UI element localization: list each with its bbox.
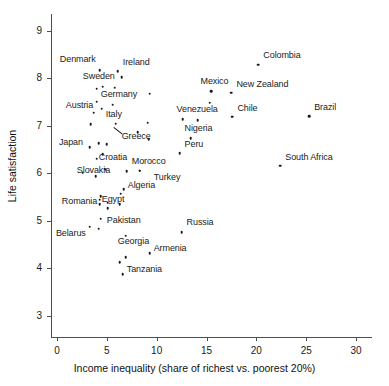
data-point-venezuela[interactable] — [181, 118, 184, 121]
data-point[interactable] — [105, 169, 108, 172]
y-tick-label: 6 — [36, 166, 42, 179]
y-tick-label: 8 — [36, 71, 42, 84]
data-point[interactable] — [98, 227, 101, 230]
data-point[interactable] — [82, 171, 85, 174]
y-tick-label: 9 — [36, 24, 42, 37]
data-point[interactable] — [96, 158, 99, 161]
data-point-morocco[interactable] — [125, 170, 128, 173]
point-label-ireland: Ireland — [123, 57, 150, 67]
x-tick-mark — [306, 337, 307, 341]
data-point[interactable] — [93, 112, 96, 115]
point-label-armenia: Armenia — [154, 243, 187, 253]
y-tick-mark — [47, 173, 51, 174]
y-tick-mark — [47, 268, 51, 269]
point-label-sweden: Sweden — [83, 71, 115, 81]
data-point[interactable] — [120, 76, 123, 79]
data-point-germany[interactable] — [112, 103, 115, 106]
point-label-russia: Russia — [187, 217, 214, 227]
y-tick-mark — [47, 126, 51, 127]
y-tick-label: 4 — [36, 261, 42, 274]
data-point[interactable] — [196, 119, 199, 122]
point-label-south-africa: South Africa — [285, 152, 332, 162]
point-label-algeria: Algeria — [128, 180, 155, 190]
data-point-pakistan[interactable] — [100, 217, 103, 220]
point-label-new-zealand: New Zealand — [236, 79, 288, 89]
x-tick-label: 30 — [350, 344, 361, 357]
data-point-algeria[interactable] — [122, 188, 125, 191]
point-label-nigeria: Nigeria — [185, 123, 213, 133]
point-label-croatia: Croatia — [99, 152, 127, 162]
point-label-colombia: Colombia — [263, 50, 300, 60]
point-label-denmark: Denmark — [60, 54, 96, 64]
y-tick-mark — [47, 78, 51, 79]
data-point-ireland[interactable] — [116, 70, 119, 73]
x-tick-label: 0 — [54, 344, 60, 357]
x-tick-mark — [207, 337, 208, 341]
data-point[interactable] — [146, 121, 149, 124]
point-label-georgia: Georgia — [118, 236, 149, 246]
data-point[interactable] — [147, 138, 150, 141]
data-point-tanzania[interactable] — [121, 273, 124, 276]
x-tick-mark — [157, 337, 158, 341]
data-point-mexico[interactable] — [210, 90, 213, 93]
data-point-turkey[interactable] — [138, 169, 141, 172]
x-tick-label: 5 — [104, 344, 110, 357]
x-tick-mark — [57, 337, 58, 341]
scatter-chart: 3456789 051015202530 Life satisfaction I… — [0, 0, 389, 386]
data-point-south-africa[interactable] — [279, 164, 282, 167]
point-label-austria: Austria — [66, 100, 93, 110]
data-point-chile[interactable] — [231, 115, 234, 118]
data-point-brazil[interactable] — [308, 115, 311, 118]
data-point[interactable] — [107, 207, 110, 210]
point-label-venezuela: Venezuela — [177, 104, 218, 114]
data-point[interactable] — [118, 261, 121, 264]
data-point[interactable] — [95, 175, 98, 178]
point-label-turkey: Turkey — [154, 172, 181, 182]
data-point[interactable] — [96, 87, 99, 90]
x-tick-mark — [256, 337, 257, 341]
y-tick-mark — [47, 316, 51, 317]
data-point-romania[interactable] — [99, 198, 102, 201]
plot-area — [51, 14, 371, 337]
point-label-peru: Peru — [185, 139, 204, 149]
data-point-japan[interactable] — [89, 146, 92, 149]
x-tick-label: 10 — [151, 344, 162, 357]
data-point-armenia[interactable] — [148, 252, 151, 255]
data-point-peru[interactable] — [178, 152, 181, 155]
data-point-new-zealand[interactable] — [230, 92, 233, 95]
data-point[interactable] — [96, 101, 99, 104]
data-point[interactable] — [98, 142, 101, 145]
data-point-italy[interactable] — [115, 122, 118, 125]
data-point[interactable] — [208, 102, 211, 105]
x-axis-title: Income inequality (share of richest vs. … — [0, 362, 389, 374]
y-tick-label: 3 — [36, 309, 42, 322]
x-tick-mark — [107, 337, 108, 341]
data-point[interactable] — [90, 123, 93, 126]
data-point-sweden[interactable] — [102, 85, 105, 88]
point-label-belarus: Belarus — [56, 228, 86, 238]
y-tick-mark — [47, 221, 51, 222]
x-tick-mark — [356, 337, 357, 341]
x-tick-label: 20 — [251, 344, 262, 357]
x-tick-label: 15 — [201, 344, 212, 357]
data-point[interactable] — [148, 93, 151, 96]
data-point-colombia[interactable] — [257, 64, 260, 67]
data-point[interactable] — [106, 143, 109, 146]
x-tick-label: 25 — [301, 344, 312, 357]
point-label-italy: Italy — [106, 109, 122, 119]
y-tick-mark — [47, 31, 51, 32]
point-label-mexico: Mexico — [200, 76, 228, 86]
y-axis-title: Life satisfaction — [6, 91, 18, 241]
data-point[interactable] — [99, 203, 102, 206]
point-label-pakistan: Pakistan — [107, 215, 141, 225]
y-tick-label: 5 — [36, 214, 42, 227]
point-label-germany: Germany — [101, 89, 137, 99]
data-point-austria[interactable] — [101, 107, 104, 110]
point-label-brazil: Brazil — [314, 102, 336, 112]
data-point-belarus[interactable] — [89, 226, 92, 229]
data-point[interactable] — [124, 256, 127, 259]
data-point-russia[interactable] — [180, 231, 183, 234]
x-axis-line — [51, 337, 372, 338]
point-label-tanzania: Tanzania — [127, 264, 162, 274]
data-point[interactable] — [118, 203, 121, 206]
